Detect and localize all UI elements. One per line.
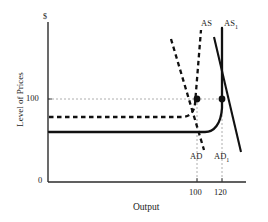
ad1-curve-label-subscript: 1	[226, 157, 229, 163]
x-tick-label-120: 120	[214, 188, 227, 197]
curve-ad1	[214, 37, 241, 152]
aggregate-supply-demand-plot	[0, 0, 268, 222]
ad-curve-label: AD	[190, 152, 202, 161]
ad-curve-label-text: AD	[190, 151, 202, 161]
chart-canvas: $ Level of Prices 100 0 100 120 Output A…	[0, 0, 268, 222]
x-axis-title: Output	[133, 203, 159, 213]
as-curve-label-text: AS	[201, 18, 212, 28]
as1-curve-label-subscript: 1	[235, 24, 238, 30]
equilibrium-original-dot	[194, 96, 201, 103]
y-axis-title: Level of Prices	[16, 60, 25, 140]
curve-as	[49, 30, 201, 117]
equilibrium-new-dot	[219, 96, 226, 103]
as1-curve-label-text: AS	[224, 18, 235, 28]
as-curve-label: AS	[201, 19, 212, 28]
x-tick-label-100: 100	[189, 188, 202, 197]
as1-curve-label: AS1	[224, 19, 238, 30]
ad1-curve-label-text: AD	[214, 151, 226, 161]
guide-lines	[48, 99, 222, 182]
ad1-curve-label: AD1	[214, 152, 229, 163]
origin-label: 0	[38, 176, 42, 185]
y-axis-unit-symbol: $	[43, 13, 47, 21]
y-tick-label-100: 100	[26, 94, 39, 103]
